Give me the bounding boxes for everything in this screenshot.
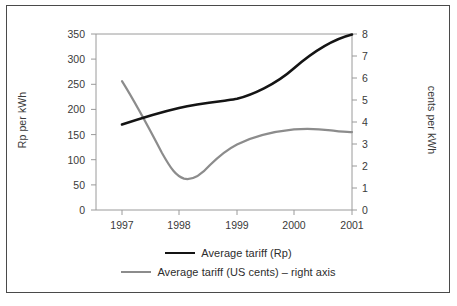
chart-figure: Rp per kWh cents per kWh 0 50 100 150 20… [0,0,457,306]
y-axis-right-title: cents per kWh [426,76,438,164]
y-axis-left-tick-label-200: 200 [51,103,85,115]
y-axis-right-tick-label-0: 0 [362,204,396,216]
y-axis-left-tick-label-50: 50 [51,179,85,191]
y-axis-right-tick-label-6: 6 [362,72,396,84]
x-axis-tick-label-2000: 2000 [271,219,317,231]
y-axis-right-tick-label-4: 4 [362,116,396,128]
legend-entry-rp: Average tariff (Rp) [0,243,457,262]
legend-label-rp: Average tariff (Rp) [201,247,291,259]
y-axis-left-tick-label-100: 100 [51,154,85,166]
series-line-us-cents [122,81,352,179]
x-axis-ticks [122,210,352,215]
y-axis-right-tick-label-8: 8 [362,28,396,40]
series-line-rp [122,35,352,125]
y-axis-left-tick-label-0: 0 [51,204,85,216]
y-axis-right-tick-label-5: 5 [362,94,396,106]
x-axis-tick-label-1998: 1998 [156,219,202,231]
legend-label-us-cents: Average tariff (US cents) – right axis [157,266,335,278]
y-axis-left-ticks [91,34,96,210]
y-axis-left-tick-label-350: 350 [51,28,85,40]
black-line-swatch [165,252,195,254]
x-axis-tick-label-2001: 2001 [329,219,375,231]
y-axis-right-tick-label-7: 7 [362,50,396,62]
y-axis-right-ticks [352,34,357,210]
y-axis-right-tick-label-2: 2 [362,160,396,172]
y-axis-left-title: Rp per kWh [16,76,28,164]
y-axis-right-tick-label-3: 3 [362,138,396,150]
x-axis-tick-label-1997: 1997 [99,219,145,231]
y-axis-left-tick-label-300: 300 [51,53,85,65]
y-axis-right-tick-label-1: 1 [362,182,396,194]
legend-entry-us-cents: Average tariff (US cents) – right axis [0,262,457,281]
x-axis-tick-label-1999: 1999 [214,219,260,231]
gray-line-swatch [121,271,151,273]
y-axis-left-tick-label-150: 150 [51,129,85,141]
y-axis-left-tick-label-250: 250 [51,78,85,90]
chart-legend: Average tariff (Rp) Average tariff (US c… [0,243,457,281]
